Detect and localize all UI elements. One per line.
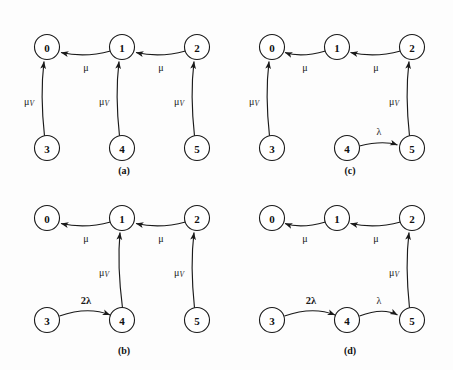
- edge-3-to-0: [42, 62, 44, 137]
- panel-caption-a: (a): [104, 165, 144, 176]
- node-0[interactable]: 0: [260, 35, 285, 60]
- node-0[interactable]: 0: [260, 206, 285, 231]
- svg-text:4: 4: [344, 315, 350, 327]
- edge-1-to-0: [61, 222, 111, 226]
- edge-5-to-2: [407, 62, 409, 137]
- node-0[interactable]: 0: [35, 35, 60, 60]
- svg-text:1: 1: [119, 213, 125, 225]
- edge-label-3-0: μV: [249, 96, 260, 108]
- edge-label-3-0: μV: [24, 96, 35, 108]
- svg-text:3: 3: [269, 315, 275, 327]
- node-4[interactable]: 4: [110, 308, 135, 333]
- edge-1-to-0: [285, 222, 326, 226]
- svg-text:3: 3: [44, 315, 50, 327]
- node-4[interactable]: 4: [335, 136, 360, 161]
- panel-caption-c: (c): [330, 165, 370, 176]
- svg-text:3: 3: [44, 143, 50, 155]
- svg-text:3: 3: [269, 143, 275, 155]
- edge-label-2-1: μ: [158, 233, 163, 244]
- panel-a-graph: μ μ μV μV μV 0 1: [0, 0, 230, 190]
- panel-caption-d: (d): [330, 345, 370, 356]
- edge-1-to-0: [61, 51, 111, 55]
- node-1[interactable]: 1: [325, 206, 350, 231]
- svg-text:4: 4: [119, 143, 125, 155]
- edge-3-to-4: [285, 311, 336, 316]
- node-2[interactable]: 2: [400, 206, 425, 231]
- svg-text:4: 4: [344, 143, 350, 155]
- svg-text:0: 0: [44, 213, 50, 225]
- edge-1-to-0: [285, 51, 326, 55]
- node-2[interactable]: 2: [400, 35, 425, 60]
- edge-2-to-1: [351, 51, 401, 55]
- svg-text:5: 5: [409, 315, 415, 327]
- edge-4-to-1: [119, 233, 123, 309]
- node-1[interactable]: 1: [325, 35, 350, 60]
- figure-canvas: μ μ μV μV μV 0 1: [0, 0, 453, 370]
- edge-2-to-1: [351, 222, 401, 226]
- node-5[interactable]: 5: [185, 136, 210, 161]
- edge-label-3-4: 2λ: [306, 295, 317, 306]
- edge-label-1-0: μ: [302, 62, 307, 73]
- edge-label-5-2: μV: [174, 267, 185, 279]
- edge-label-5-2: μV: [389, 267, 400, 279]
- svg-text:2: 2: [194, 42, 200, 54]
- edge-4-to-5: [360, 311, 398, 316]
- svg-text:5: 5: [409, 143, 415, 155]
- edge-label-1-0: μ: [83, 233, 88, 244]
- edge-label-5-2: μV: [389, 96, 400, 108]
- edge-label-2-1: μ: [373, 62, 378, 73]
- node-4[interactable]: 4: [110, 136, 135, 161]
- node-3[interactable]: 3: [35, 136, 60, 161]
- node-4[interactable]: 4: [335, 308, 360, 333]
- panel-c: μ μ μV μV λ 0 1 2: [225, 0, 453, 190]
- panel-a: μ μ μV μV μV 0 1: [0, 0, 230, 190]
- edge-2-to-1: [136, 222, 186, 226]
- edge-5-to-2: [192, 233, 194, 309]
- node-1[interactable]: 1: [110, 35, 135, 60]
- node-3[interactable]: 3: [35, 308, 60, 333]
- node-2[interactable]: 2: [185, 206, 210, 231]
- panel-d: μ μ μV 2λ λ 0 1 2: [225, 190, 453, 370]
- edge-4-to-1: [117, 62, 119, 137]
- edge-label-4-5: λ: [377, 126, 382, 137]
- svg-text:2: 2: [409, 213, 415, 225]
- panel-b-graph: μ μ μV μV 2λ 0 1 2: [0, 190, 230, 370]
- edge-2-to-1: [136, 51, 186, 55]
- edge-3-to-4: [60, 311, 111, 316]
- svg-text:0: 0: [44, 42, 50, 54]
- edge-label-2-1: μ: [158, 62, 163, 73]
- panel-d-graph: μ μ μV 2λ λ 0 1 2: [225, 190, 453, 370]
- edge-label-4-1: μV: [99, 267, 110, 279]
- svg-text:1: 1: [119, 42, 125, 54]
- edge-label-4-1: μV: [99, 96, 110, 108]
- panel-caption-b: (b): [104, 345, 144, 356]
- svg-text:1: 1: [334, 42, 340, 54]
- panel-b: μ μ μV μV 2λ 0 1 2: [0, 190, 230, 370]
- edge-label-1-0: μ: [302, 233, 307, 244]
- svg-text:2: 2: [409, 42, 415, 54]
- node-5[interactable]: 5: [185, 308, 210, 333]
- node-1[interactable]: 1: [110, 206, 135, 231]
- svg-text:1: 1: [334, 213, 340, 225]
- edge-label-2-1: μ: [373, 233, 378, 244]
- node-2[interactable]: 2: [185, 35, 210, 60]
- node-0[interactable]: 0: [35, 206, 60, 231]
- edge-label-5-2: μV: [174, 96, 185, 108]
- node-5[interactable]: 5: [400, 308, 425, 333]
- svg-text:0: 0: [269, 42, 275, 54]
- edge-3-to-0: [267, 62, 269, 137]
- edge-label-4-5: λ: [377, 295, 382, 306]
- node-5[interactable]: 5: [400, 136, 425, 161]
- edge-5-to-2: [192, 62, 194, 137]
- svg-text:2: 2: [194, 213, 200, 225]
- svg-text:5: 5: [194, 143, 200, 155]
- svg-text:5: 5: [194, 315, 200, 327]
- panel-c-graph: μ μ μV μV λ 0 1 2: [225, 0, 453, 190]
- edge-4-to-5: [360, 143, 398, 146]
- edge-label-3-4: 2λ: [81, 295, 92, 306]
- edge-label-1-0: μ: [83, 62, 88, 73]
- node-3[interactable]: 3: [260, 136, 285, 161]
- node-3[interactable]: 3: [260, 308, 285, 333]
- svg-text:0: 0: [269, 213, 275, 225]
- edge-5-to-2: [407, 233, 409, 309]
